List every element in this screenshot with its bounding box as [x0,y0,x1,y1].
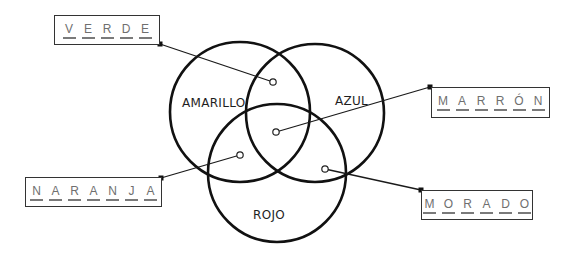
answer-letters: MORADO [423,197,531,214]
letter-blank: A [456,94,469,111]
letter-blank: N [30,184,43,201]
letter-blank: O [518,197,531,214]
letter-blank: D [499,197,512,214]
answer-box-verde: VERDE [54,15,160,45]
region-point-naranja [237,152,243,158]
region-point-verde [270,79,276,85]
letter-blank: M [423,197,436,214]
letter-blank: O [442,197,455,214]
letter-blank: R [101,22,114,39]
letter-blank: J [125,184,138,201]
letter-blank: N [532,94,545,111]
circle-azul [246,44,384,182]
letter-blank: E [139,22,152,39]
region-point-marron [273,129,279,135]
letter-blank: R [475,94,488,111]
answer-box-marron: MARRÓN [431,87,550,118]
letter-blank: N [106,184,119,201]
answer-letters: VERDE [63,22,152,39]
region-point-morado [322,166,328,172]
region-label-azul: AZUL [335,94,368,108]
region-label-amarillo: AMARILLO [182,96,245,110]
leader-line-naranja [161,155,240,178]
letter-blank: A [144,184,157,201]
answer-letters: MARRÓN [437,94,545,111]
leader-line-morado [325,169,421,190]
letter-blank: A [480,197,493,214]
letter-blank: R [68,184,81,201]
letter-blank: R [494,94,507,111]
answer-box-naranja: NARANJA [25,177,162,207]
answer-box-morado: MORADO [421,190,533,220]
leader-line-verde [160,44,273,82]
answer-letters: NARANJA [30,184,157,201]
letter-blank: A [87,184,100,201]
letter-blank: Ó [513,94,526,111]
letter-blank: D [120,22,133,39]
letter-blank: R [461,197,474,214]
letter-blank: M [437,94,450,111]
letter-blank: A [49,184,62,201]
circle-amarillo [170,42,310,182]
letter-blank: V [63,22,76,39]
region-label-rojo: ROJO [253,208,285,222]
letter-blank: E [82,22,95,39]
